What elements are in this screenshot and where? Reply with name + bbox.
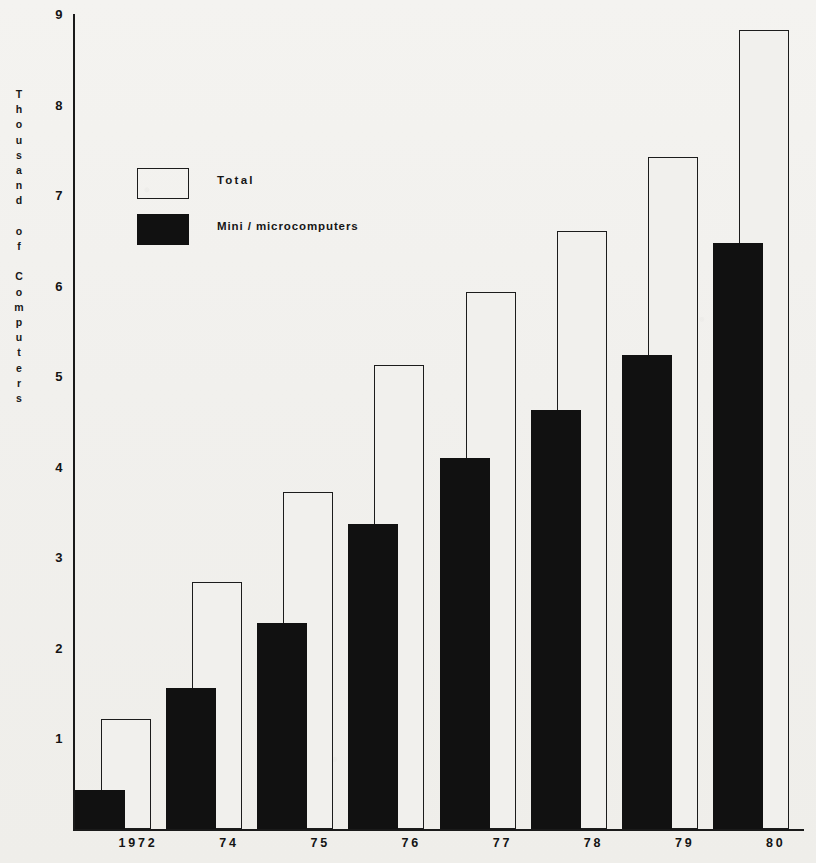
bar-chart: Thousand of Computers 123456789 19727475…	[0, 0, 816, 863]
bar-group	[713, 0, 804, 829]
y-tick-label: 6	[0, 278, 73, 293]
bar-mini-microcomputers	[257, 623, 307, 829]
x-tick-label: 79	[675, 836, 695, 850]
legend-item-mini-microcomputers: Mini / microcomputers	[137, 214, 437, 260]
bar-mini-microcomputers	[348, 524, 398, 829]
bar-mini-microcomputers	[713, 243, 763, 829]
y-axis-title: Thousand of Computers	[4, 88, 26, 407]
bar-group	[531, 0, 622, 829]
y-tick-label: 2	[0, 640, 73, 655]
bar-mini-microcomputers	[622, 355, 672, 830]
y-tick-label: 3	[0, 550, 73, 565]
y-tick-label: 8	[0, 97, 73, 112]
x-tick-label: 75	[310, 836, 330, 850]
y-tick-label: 5	[0, 369, 73, 384]
bar-group	[440, 0, 531, 829]
plot-area	[75, 0, 804, 829]
bar-mini-microcomputers	[75, 790, 125, 829]
x-tick-label: 78	[584, 836, 604, 850]
legend-label-mini-microcomputers: Mini / microcomputers	[217, 220, 359, 232]
bar-group	[166, 0, 257, 829]
bar-group	[75, 0, 166, 829]
x-tick-label: 76	[402, 836, 422, 850]
bar-group	[348, 0, 439, 829]
y-tick-label: 9	[0, 7, 73, 22]
legend-swatch-mini-icon	[137, 214, 189, 245]
bar-mini-microcomputers	[166, 688, 216, 829]
y-tick-label: 7	[0, 188, 73, 203]
x-tick-label: 1972	[118, 836, 157, 850]
x-tick-label: 74	[219, 836, 239, 850]
bar-mini-microcomputers	[440, 458, 490, 829]
legend-label-total: Total	[217, 174, 255, 186]
bar-mini-microcomputers	[531, 410, 581, 829]
x-tick-label: 80	[766, 836, 786, 850]
y-tick-label: 4	[0, 459, 73, 474]
y-tick-label: 1	[0, 731, 73, 746]
bar-group	[622, 0, 713, 829]
legend-item-total: Total	[137, 168, 437, 214]
x-axis-line	[73, 829, 804, 831]
legend-swatch-total-icon	[137, 168, 189, 199]
bar-group	[257, 0, 348, 829]
chart-legend: Total Mini / microcomputers	[137, 168, 437, 260]
x-tick-label: 77	[493, 836, 513, 850]
x-axis-tick-labels: 197274757677787980	[75, 836, 804, 862]
